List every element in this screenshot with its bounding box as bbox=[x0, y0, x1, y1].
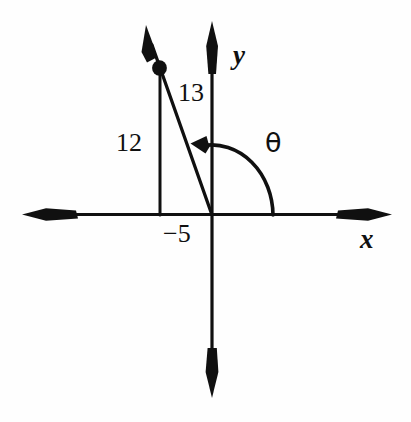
vertical-leg-label: 12 bbox=[116, 130, 142, 156]
angle-theta-label: θ bbox=[265, 129, 282, 156]
y-axis bbox=[206, 21, 219, 398]
x-axis-label: x bbox=[360, 226, 374, 253]
y-axis-top-arrowhead-icon bbox=[206, 21, 218, 74]
y-axis-bottom-arrowhead-icon bbox=[206, 348, 219, 398]
angle-arc bbox=[191, 136, 274, 215]
x-axis-right-arrowhead-icon bbox=[336, 208, 392, 221]
angle-arc-arrowhead-icon bbox=[191, 136, 210, 154]
y-axis-label: y bbox=[233, 42, 245, 69]
trig-diagram-canvas bbox=[0, 0, 411, 422]
terminal-point-marker bbox=[152, 60, 167, 76]
terminal-ray-arrowhead-icon bbox=[142, 25, 157, 63]
angle-arc-path bbox=[204, 145, 274, 215]
terminal-ray bbox=[142, 25, 213, 215]
x-axis-left-arrowhead-icon bbox=[22, 208, 78, 221]
terminal-point-dot-icon bbox=[152, 60, 167, 76]
x-coordinate-label: −5 bbox=[163, 221, 191, 247]
trig-diagram-figure: y x 12 13 −5 θ bbox=[0, 0, 411, 422]
hypotenuse-label: 13 bbox=[178, 80, 204, 106]
x-axis bbox=[22, 208, 392, 221]
